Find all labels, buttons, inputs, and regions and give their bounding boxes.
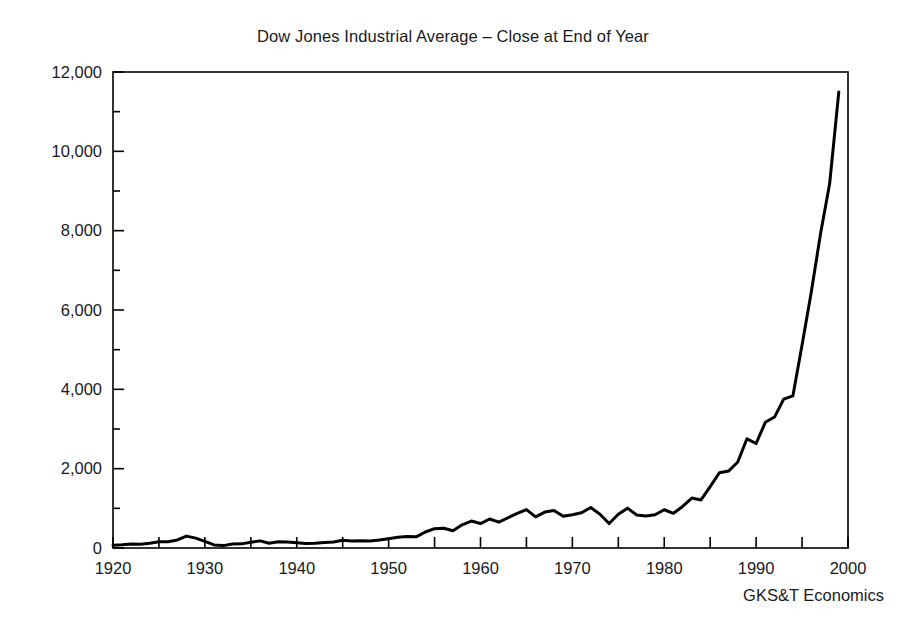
x-axis-tick-label: 1950 <box>349 560 429 577</box>
y-axis-tick-label: 4,000 <box>61 381 102 398</box>
y-axis-ticks <box>113 72 124 548</box>
x-axis-tick-label: 1980 <box>624 560 704 577</box>
plot-frame <box>113 72 848 548</box>
chart-plot-area <box>0 0 906 620</box>
x-axis-tick-label: 2000 <box>808 560 888 577</box>
y-axis-tick-label: 2,000 <box>61 460 102 477</box>
x-axis-tick-label: 1960 <box>441 560 521 577</box>
y-axis-tick-label: 8,000 <box>61 222 102 239</box>
x-axis-tick-label: 1930 <box>165 560 245 577</box>
y-axis-tick-label: 0 <box>93 540 102 557</box>
x-axis-tick-label: 1920 <box>73 560 153 577</box>
chart-figure: Dow Jones Industrial Average – Close at … <box>0 0 906 620</box>
data-series-line <box>113 92 839 546</box>
x-axis-tick-label: 1940 <box>257 560 337 577</box>
y-axis-tick-label: 10,000 <box>52 143 102 160</box>
x-axis-tick-label: 1970 <box>532 560 612 577</box>
y-axis-tick-label: 6,000 <box>61 302 102 319</box>
y-axis-tick-label: 12,000 <box>52 64 102 81</box>
source-credit: GKS&T Economics <box>0 586 884 605</box>
x-axis-tick-label: 1990 <box>716 560 796 577</box>
